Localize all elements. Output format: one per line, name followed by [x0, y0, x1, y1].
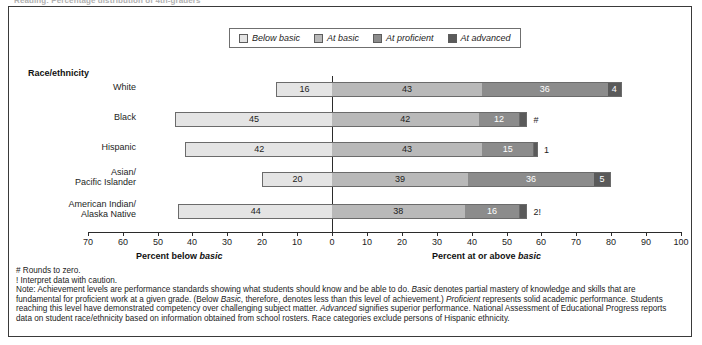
bar-segment-value: 39: [395, 175, 405, 184]
bar-segment-value: 45: [249, 115, 259, 124]
note-term-basic: Basic: [412, 285, 432, 294]
bar-segment: 20: [262, 172, 332, 187]
x-axis-tick: [88, 232, 89, 236]
bar-row: 4438162!: [0, 204, 702, 219]
x-axis-tick: [262, 232, 263, 236]
bar-segment-value: 5: [599, 175, 604, 184]
x-axis-tick: [437, 232, 438, 236]
bar-segment-value: 4: [612, 85, 617, 94]
bar-segment: 43: [332, 82, 482, 97]
note-text: represents solid academic performance. S…: [480, 295, 663, 304]
bar-segment-value: 43: [402, 145, 412, 154]
x-axis-tick: [123, 232, 124, 236]
x-axis-title-right: Percent at or above basic: [432, 251, 541, 261]
x-axis-tick-label: 60: [529, 237, 553, 247]
x-axis-tick-label: 70: [76, 237, 100, 247]
bar-segment: 5: [594, 172, 611, 187]
bar-segment-value: 36: [526, 175, 536, 184]
bar-segment-value-outside: 2!: [533, 207, 541, 217]
x-axis-tick: [541, 232, 542, 236]
bar-segment: 36: [468, 172, 594, 187]
x-axis-tick: [472, 232, 473, 236]
bar-segment: 42: [185, 142, 332, 157]
x-axis-tick-label: 60: [111, 237, 135, 247]
x-axis-tick-label: 40: [180, 237, 204, 247]
bar-segment: 36: [482, 82, 608, 97]
bar-segment: 4: [608, 82, 622, 97]
x-axis-line: [88, 232, 681, 233]
bar-segment-value: 42: [400, 115, 410, 124]
x-axis-tick-label: 100: [669, 237, 693, 247]
x-axis-tick-label: 30: [425, 237, 449, 247]
x-axis-tick: [192, 232, 193, 236]
figure-notes: # Rounds to zero. ! Interpret data with …: [16, 266, 684, 324]
bar-segment-value: 42: [254, 145, 264, 154]
x-axis-tick-label: 40: [460, 237, 484, 247]
x-axis-tick: [297, 232, 298, 236]
x-axis-title-left: Percent below basic: [136, 251, 223, 261]
x-axis-tick-label: 50: [495, 237, 519, 247]
x-axis-tick: [367, 232, 368, 236]
x-axis-tick-label: 30: [215, 237, 239, 247]
note-text: fundamental for proficient work at a giv…: [16, 295, 221, 304]
note-line-4: data on student race/ethnicity based on …: [16, 314, 684, 324]
bar-segment: 39: [332, 172, 468, 187]
x-axis-tick-label: 10: [285, 237, 309, 247]
note-text: signifies superior performance. National…: [356, 304, 666, 313]
x-axis-tick: [332, 232, 333, 236]
bar-segment: 45: [175, 112, 332, 127]
note-term-advanced: Advanced: [320, 304, 356, 313]
note-bang: ! Interpret data with caution.: [16, 276, 684, 286]
bar-segment-value: 15: [503, 145, 513, 154]
bar-segment-value: 20: [293, 175, 303, 184]
bar-segment-value: 36: [540, 85, 550, 94]
bar-row: 4243151: [0, 142, 702, 157]
bar-segment: 16: [276, 82, 332, 97]
x-axis-tick-label: 20: [390, 237, 414, 247]
bar-segment-value: 43: [402, 85, 412, 94]
bar-segment: 44: [178, 204, 332, 219]
note-text: Note: Achievement levels are performance…: [16, 285, 412, 294]
note-line-1: Note: Achievement levels are performance…: [16, 285, 684, 295]
x-axis-tick: [507, 232, 508, 236]
x-axis-tick-label: 50: [146, 237, 170, 247]
note-line-3: reaching this level have demonstrated co…: [16, 304, 684, 314]
bar-row: 2039365: [0, 172, 702, 187]
bar-row: 1643364: [0, 82, 702, 97]
x-axis-tick: [646, 232, 647, 236]
x-axis-tick-label: 10: [355, 237, 379, 247]
note-hash: # Rounds to zero.: [16, 266, 684, 276]
note-term-basic: Basic: [221, 295, 241, 304]
note-term-proficient: Proficient: [446, 295, 480, 304]
x-axis-tick: [227, 232, 228, 236]
bar-segment: 42: [332, 112, 479, 127]
x-axis-tick-label: 90: [634, 237, 658, 247]
bar-segment-value: 38: [393, 207, 403, 216]
note-line-2: fundamental for proficient work at a giv…: [16, 295, 684, 305]
bar-segment-value: 16: [487, 207, 497, 216]
note-text: denotes partial mastery of knowledge and…: [432, 285, 636, 294]
bar-segment-value: 16: [300, 85, 310, 94]
bar-segment: [534, 142, 537, 157]
x-axis-tick-label: 80: [599, 237, 623, 247]
category-group-heading: Race/ethnicity: [28, 68, 89, 78]
bar-segment: [520, 204, 527, 219]
x-axis-tick-label: 70: [564, 237, 588, 247]
x-axis-tick-label: 0: [320, 237, 344, 247]
note-text: reaching this level have demonstrated co…: [16, 304, 320, 313]
bar-segment-value: 12: [494, 115, 504, 124]
bar-segment: 16: [465, 204, 521, 219]
x-axis-tick: [611, 232, 612, 236]
bar-segment: 15: [482, 142, 534, 157]
x-axis-tick: [576, 232, 577, 236]
note-text: , therefore, denotes less than this leve…: [241, 295, 446, 304]
bar-segment: 43: [332, 142, 482, 157]
x-axis-tick: [402, 232, 403, 236]
bar-segment-value-outside: 1: [544, 145, 549, 155]
x-axis-tick: [681, 232, 682, 236]
chart-figure: Reading: Percentage distribution of 4th-…: [0, 0, 702, 345]
x-axis-tick-label: 20: [250, 237, 274, 247]
bar-segment: 12: [479, 112, 521, 127]
bar-segment: [520, 112, 527, 127]
bar-segment-value-outside: #: [533, 115, 538, 125]
